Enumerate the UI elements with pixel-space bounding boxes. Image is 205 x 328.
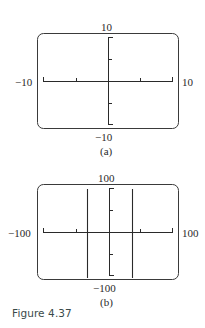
xmax-label-a: 10: [182, 76, 193, 88]
ymax-label-b: 100: [98, 172, 115, 184]
xmin-label-a: −10: [15, 76, 32, 88]
figure-caption: Figure 4.37: [12, 307, 72, 319]
panel-a: 10 −10 −10 10 (a): [0, 0, 205, 160]
panel-label-b: (b): [100, 296, 113, 308]
ymin-label-b: −100: [93, 282, 116, 294]
xmax-label-b: 100: [182, 227, 199, 239]
xmin-label-b: −100: [8, 227, 31, 239]
ymax-label-a: 10: [101, 21, 112, 33]
ymin-label-a: −10: [95, 131, 112, 143]
panel-b: 100 −100 −100 100 (b): [0, 151, 205, 301]
